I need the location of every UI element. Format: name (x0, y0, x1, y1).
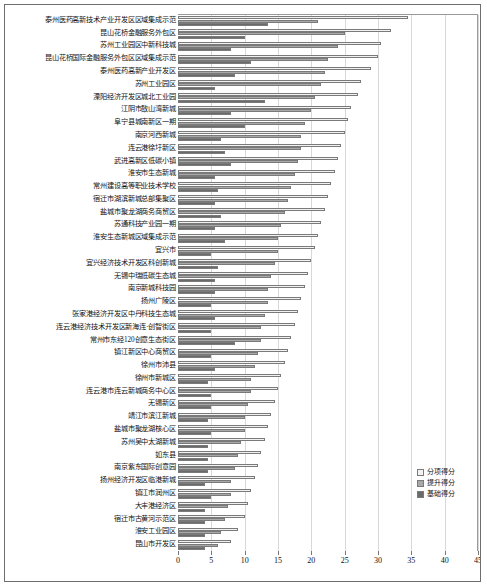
axis-tick (211, 551, 212, 555)
bar-基础得分 (178, 432, 211, 435)
axis-tick-label: 45 (474, 556, 481, 565)
legend-swatch-icon (417, 469, 424, 476)
bar-基础得分 (178, 419, 208, 422)
bar-基础得分 (178, 138, 221, 141)
bar-基础得分 (178, 458, 208, 461)
bar-group (178, 437, 477, 450)
category-label: 宜兴经济技术开发区科创新城 (86, 259, 176, 267)
bar-基础得分 (178, 112, 231, 115)
bar-基础得分 (178, 227, 215, 230)
legend-label: 基础得分 (427, 489, 455, 500)
category-label: 昆山市开发区 (135, 540, 176, 548)
bar-基础得分 (178, 23, 268, 26)
bar-group (178, 105, 477, 118)
category-label: 昆山花桥国际金融服务外包区区域集成示范 (45, 54, 176, 62)
category-label: 武进高新区低碳小镇 (114, 157, 176, 165)
bar-基础得分 (178, 368, 215, 371)
category-label: 南京紫东国际创意园 (114, 463, 176, 471)
legend-label: 分项得分 (427, 467, 455, 478)
category-label: 连云港徐圩新区 (128, 144, 176, 152)
bar-基础得分 (178, 342, 235, 345)
bar-group (178, 258, 477, 271)
category-label: 淮安工业园区 (135, 527, 176, 535)
bar-group (178, 424, 477, 437)
axis-tick-label: 30 (374, 556, 382, 565)
bar-基础得分 (178, 48, 231, 51)
bar-基础得分 (178, 163, 231, 166)
category-label: 无锡中瑞低碳生态城 (114, 272, 176, 280)
bar-group (178, 335, 477, 348)
legend-swatch-icon (417, 480, 424, 487)
bar-基础得分 (178, 253, 211, 256)
axis-tick (311, 551, 312, 555)
bar-group (178, 207, 477, 220)
axis-tick (445, 551, 446, 555)
bar-基础得分 (178, 215, 221, 218)
category-label: 常州建设高等职业技术学校 (93, 182, 176, 190)
bar-基础得分 (178, 304, 211, 307)
axis-tick (378, 551, 379, 555)
bar-基础得分 (178, 61, 251, 64)
category-label: 泰州医药高新产业开发区 (100, 67, 176, 75)
category-label: 苏州工业园区 (135, 80, 176, 88)
category-label: 苏州工业园区中新科技城 (100, 41, 176, 49)
bar-基础得分 (178, 151, 225, 154)
category-label: 泰州医药高新技术产业开发区区域集成示范 (45, 16, 176, 24)
bar-group (178, 168, 477, 181)
axis-tick (411, 551, 412, 555)
category-label: 大丰港经济区 (135, 502, 176, 510)
bar-基础得分 (178, 176, 215, 179)
axis-tick-label: 5 (209, 556, 213, 565)
gridline (478, 15, 479, 551)
chart-legend: 分项得分提升得分基础得分 (417, 467, 455, 500)
bar-基础得分 (178, 317, 215, 320)
axis-tick-label: 40 (441, 556, 449, 565)
bar-group (178, 411, 477, 424)
bar-group (178, 399, 477, 412)
category-label: 宿迁市湖滨新城总部集聚区 (93, 195, 176, 203)
bar-group (178, 360, 477, 373)
bar-基础得分 (178, 496, 211, 499)
bar-group (178, 296, 477, 309)
axis-tick (478, 551, 479, 555)
category-label: 张家港经济开发区中丹科技生态城 (72, 310, 176, 318)
bar-基础得分 (178, 330, 211, 333)
bar-group (178, 143, 477, 156)
bar-基础得分 (178, 394, 211, 397)
category-label: 盐城市聚龙湖核心区 (114, 425, 176, 433)
bar-group (178, 194, 477, 207)
axis-tick-label: 35 (407, 556, 415, 565)
bar-group (178, 79, 477, 92)
bar-基础得分 (178, 534, 205, 537)
legend-item[interactable]: 提升得分 (417, 478, 455, 489)
bar-group (178, 322, 477, 335)
category-label: 淮安市生态新城 (128, 169, 176, 177)
legend-item[interactable]: 分项得分 (417, 467, 455, 478)
bar-基础得分 (178, 74, 235, 77)
bar-group (178, 156, 477, 169)
bar-基础得分 (178, 279, 215, 282)
axis-tick-label: 25 (341, 556, 349, 565)
bar-group (178, 181, 477, 194)
bar-group (178, 15, 477, 28)
category-label: 宜兴市 (155, 246, 176, 254)
bar-基础得分 (178, 521, 205, 524)
legend-swatch-icon (417, 491, 424, 498)
bar-基础得分 (178, 470, 208, 473)
bar-group (178, 245, 477, 258)
bar-group (178, 514, 477, 527)
axis-tick-label: 15 (274, 556, 282, 565)
category-label: 如东县 (155, 451, 176, 459)
bar-基础得分 (178, 547, 205, 550)
category-label: 昆山花桥金融服务外包区 (100, 29, 176, 37)
bar-group (178, 66, 477, 79)
category-label: 扬州广陵区 (141, 297, 176, 305)
bar-group (178, 130, 477, 143)
category-label: 徐州市沛县 (141, 361, 176, 369)
bar-group (178, 53, 477, 66)
category-label: 镇江新区中心商贸区 (114, 348, 176, 356)
category-label: 南京新城科技园 (128, 284, 176, 292)
bar-group (178, 41, 477, 54)
legend-item[interactable]: 基础得分 (417, 489, 455, 500)
bar-group (178, 309, 477, 322)
